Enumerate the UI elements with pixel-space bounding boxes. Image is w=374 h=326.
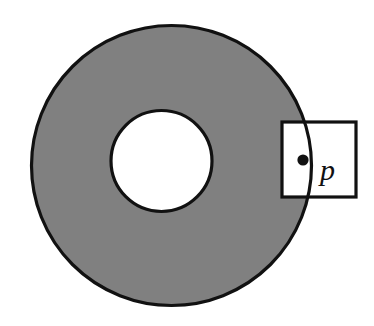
neighborhood-window-fill [282,122,356,197]
figure-canvas: p [0,0,374,326]
point-p-dot [297,154,308,165]
point-p-label: p [318,153,335,186]
annulus-diagram: p [0,0,374,326]
